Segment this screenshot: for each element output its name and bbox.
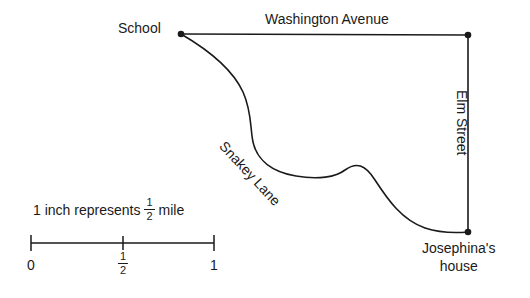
label-josephina-house: Josephina's house — [422, 240, 496, 275]
node-school-dot — [178, 31, 185, 38]
washington-avenue-line — [181, 34, 468, 35]
scale-caption: 1 inch represents 1 2 mile — [33, 198, 184, 223]
label-washington-avenue: Washington Avenue — [265, 11, 389, 27]
label-josephina-house-line1: Josephina's — [422, 240, 496, 258]
node-washington-elm-corner-dot — [465, 32, 472, 39]
scale-caption-fraction-numerator: 1 — [144, 197, 154, 209]
label-elm-street: Elm Street — [454, 90, 470, 155]
label-school: School — [118, 20, 161, 36]
scale-caption-prefix: 1 inch represents — [33, 202, 140, 218]
scale-caption-fraction: 1 2 — [144, 197, 154, 222]
scale-caption-fraction-denominator: 2 — [144, 210, 154, 222]
label-josephina-house-line2: house — [422, 258, 496, 276]
scale-caption-suffix: mile — [159, 202, 185, 218]
node-josephina-house-dot — [465, 229, 472, 236]
map-figure: School Washington Avenue Elm Street Snak… — [0, 0, 530, 298]
snakey-lane-path — [181, 34, 468, 233]
